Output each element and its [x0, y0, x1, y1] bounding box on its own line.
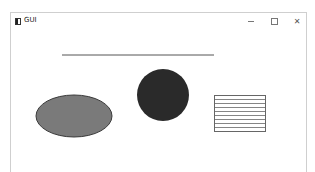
filled-ellipse	[36, 95, 112, 137]
hatched-rectangle	[215, 96, 266, 132]
filled-circle	[137, 69, 189, 121]
drawing-canvas	[0, 0, 315, 172]
